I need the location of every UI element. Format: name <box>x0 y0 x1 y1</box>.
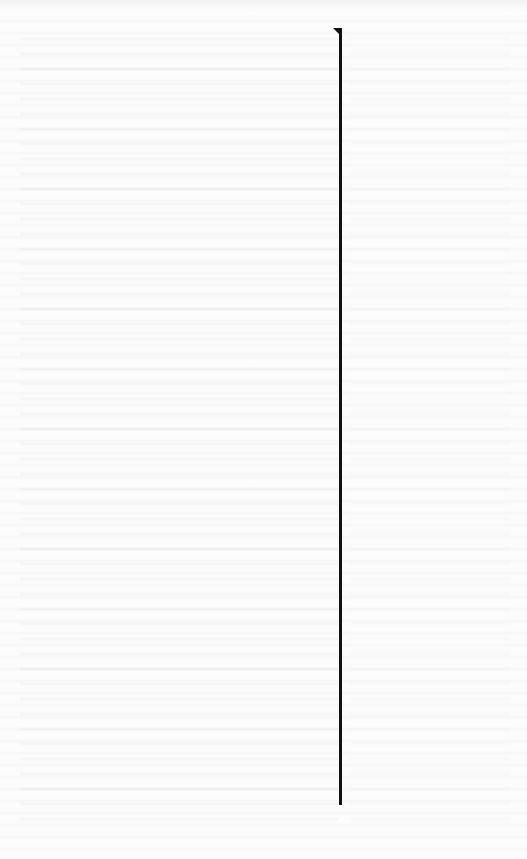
scan-top-edge <box>0 0 527 10</box>
bleed-through-text-left <box>20 28 338 828</box>
scanned-page <box>0 0 527 859</box>
vertical-rule <box>339 30 342 805</box>
bleed-through-text-right <box>350 28 510 828</box>
